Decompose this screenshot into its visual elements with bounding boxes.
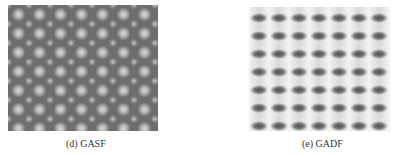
gadf-caption: (e) GADF	[302, 138, 343, 150]
gasf-caption: (d) GASF	[66, 138, 106, 150]
gadf-image	[249, 7, 390, 131]
gasf-image	[8, 5, 158, 131]
